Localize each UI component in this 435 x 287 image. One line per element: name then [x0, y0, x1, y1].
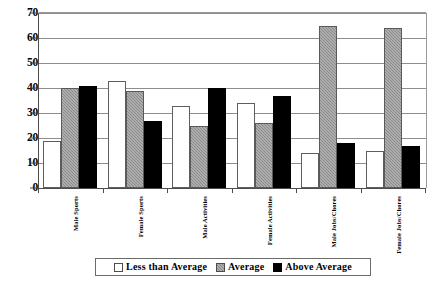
bar [208, 88, 226, 188]
x-tick-mark [167, 188, 168, 193]
legend-label: Average [228, 262, 264, 272]
bar-groups [38, 13, 425, 188]
legend-label: Less than Average [126, 262, 207, 272]
bar-group [38, 13, 103, 188]
legend-swatch-icon [114, 263, 123, 272]
bar [337, 143, 355, 188]
bar [255, 123, 273, 188]
bar [319, 26, 337, 189]
bar [237, 103, 255, 188]
bar [402, 146, 420, 189]
y-tick-mark-60 [30, 38, 37, 39]
y-tick-mark-10 [30, 163, 37, 164]
y-tick-mark-20 [30, 138, 37, 139]
legend-swatch-icon [273, 263, 282, 272]
bar [172, 106, 190, 189]
legend-label: Above Average [285, 262, 352, 272]
bar [273, 96, 291, 189]
bar [43, 141, 61, 189]
y-tick-mark-50 [30, 63, 37, 64]
legend-entry: Average [216, 262, 264, 272]
x-tick-label: Male Activities [202, 196, 209, 239]
bar-group [167, 13, 232, 188]
x-tick-mark [103, 188, 104, 193]
legend-entry: Above Average [273, 262, 352, 272]
bar-group [296, 13, 361, 188]
x-tick-mark [232, 188, 233, 193]
bar [384, 28, 402, 188]
bar-group [103, 13, 168, 188]
bar [190, 126, 208, 189]
grouped-bar-chart: 010203040506070 Male SportsFemale Sports… [0, 0, 435, 287]
bar [301, 153, 319, 188]
bar [61, 88, 79, 188]
x-tick-mark [425, 188, 426, 193]
bar [366, 151, 384, 189]
x-tick-label: Female Jobs/Chores [396, 196, 403, 254]
legend-swatch-icon [216, 263, 225, 272]
x-tick-label: Male Jobs/Chores [331, 196, 338, 248]
chart-legend: Less than AverageAverageAbove Average [95, 258, 371, 276]
bar [144, 121, 162, 189]
bar-group [361, 13, 426, 188]
x-tick-mark [361, 188, 362, 193]
x-tick-mark [38, 188, 39, 193]
plot-frame-right [426, 13, 427, 188]
legend-entry: Less than Average [114, 262, 207, 272]
bar-group [232, 13, 297, 188]
x-tick-label: Female Sports [138, 196, 145, 237]
x-tick-label: Male Sports [73, 196, 80, 231]
x-tick-label: Female Activities [267, 196, 274, 245]
bar [79, 86, 97, 189]
y-axis: 010203040506070 [0, 13, 38, 188]
y-tick-mark-30 [30, 113, 37, 114]
bar [126, 91, 144, 189]
x-tick-mark [296, 188, 297, 193]
bar [108, 81, 126, 189]
y-tick-mark-70 [30, 13, 37, 14]
y-tick-mark-0 [30, 188, 37, 189]
y-tick-mark-40 [30, 88, 37, 89]
